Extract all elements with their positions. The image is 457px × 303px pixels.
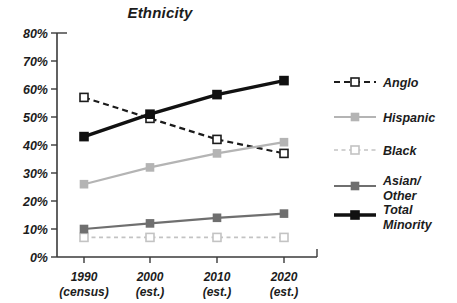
data-point-marker: [280, 233, 288, 241]
data-point-marker: [146, 110, 154, 118]
data-point-marker: [214, 214, 221, 221]
y-tick-label: 20%: [22, 195, 48, 209]
y-tick-label: 30%: [23, 167, 48, 181]
ethnicity-line-chart: Ethnicity 0%10%20%30%40%50%60%70%80% 199…: [0, 0, 457, 303]
data-point-marker: [81, 181, 88, 188]
legend-item-anglo[interactable]: Anglo: [334, 76, 419, 90]
y-tick-label: 80%: [23, 27, 48, 41]
data-point-marker: [213, 135, 221, 143]
data-point-marker: [281, 139, 288, 146]
data-point-marker: [213, 233, 221, 241]
legend-label-line2: Minority: [383, 218, 433, 232]
data-point-marker: [81, 226, 88, 233]
series-line: [84, 142, 284, 184]
series-line: [84, 214, 284, 229]
series-black: [80, 233, 288, 241]
data-point-marker: [352, 114, 359, 121]
x-tick-sublabel: (est.): [270, 285, 299, 299]
series-layer: [80, 77, 288, 242]
x-tick-sublabel: (est.): [203, 285, 232, 299]
data-point-marker: [80, 133, 88, 141]
y-tick-label: 10%: [23, 223, 48, 237]
legend-item-total-minority[interactable]: TotalMinority: [334, 203, 433, 232]
y-tick-label: 70%: [23, 55, 48, 69]
x-tick-label: 1990: [71, 270, 98, 284]
x-tick-sublabel: (census): [59, 285, 108, 299]
y-tick-label: 60%: [23, 83, 48, 97]
x-axis: 1990(census)2000(est.)2010(est.)2020(est…: [57, 33, 317, 299]
data-point-marker: [351, 146, 359, 154]
legend-label: Black: [383, 144, 417, 158]
legend-label: Total: [383, 203, 413, 217]
series-hispanic: [81, 139, 288, 188]
legend-item-black[interactable]: Black: [334, 144, 417, 158]
data-point-marker: [146, 233, 154, 241]
data-point-marker: [352, 183, 359, 190]
y-tick-label: 40%: [22, 139, 48, 153]
data-point-marker: [147, 164, 154, 171]
y-tick-label: 50%: [23, 111, 48, 125]
data-point-marker: [80, 233, 88, 241]
legend-label: Hispanic: [383, 111, 435, 125]
data-point-marker: [280, 77, 288, 85]
data-point-marker: [281, 210, 288, 217]
data-point-marker: [351, 78, 359, 86]
y-axis: 0%10%20%30%40%50%60%70%80%: [22, 27, 57, 265]
x-tick-label: 2010: [203, 270, 231, 284]
x-tick-label: 2020: [270, 270, 298, 284]
y-tick-label: 0%: [30, 251, 48, 265]
legend: AngloHispanicBlackAsian/OtherTotalMinori…: [334, 76, 435, 232]
data-point-marker: [214, 150, 221, 157]
x-tick-sublabel: (est.): [136, 285, 165, 299]
data-point-marker: [80, 93, 88, 101]
legend-label-line2: Other: [383, 189, 417, 203]
chart-canvas: 0%10%20%30%40%50%60%70%80% 1990(census)2…: [0, 0, 457, 303]
legend-item-hispanic[interactable]: Hispanic: [334, 111, 435, 125]
legend-label: Anglo: [382, 76, 419, 90]
x-tick-label: 2000: [136, 270, 164, 284]
legend-label: Asian/: [382, 174, 422, 188]
data-point-marker: [213, 91, 221, 99]
series-asian-other: [81, 210, 288, 232]
legend-item-asian-other[interactable]: Asian/Other: [334, 174, 422, 203]
data-point-marker: [280, 149, 288, 157]
series-total-minority: [80, 77, 288, 141]
data-point-marker: [147, 220, 154, 227]
data-point-marker: [351, 211, 359, 219]
